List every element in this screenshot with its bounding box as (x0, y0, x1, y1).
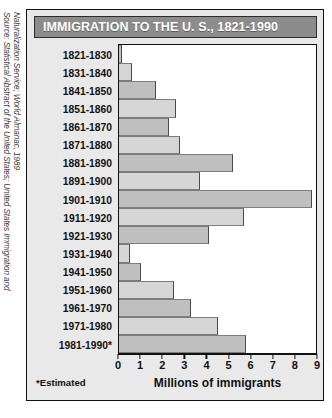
value-axis: 0123456789 (118, 354, 317, 376)
axis-line (118, 354, 317, 355)
category-label: 1911-1920 (34, 209, 118, 227)
axis-tick-label: 4 (203, 359, 209, 371)
bar (119, 226, 209, 244)
chart-figure: IMMIGRATION TO THE U. S., 1821-1990 1821… (26, 9, 324, 401)
bar-series (119, 45, 316, 353)
bar-row (119, 317, 316, 335)
category-label: 1861-1870 (34, 119, 118, 137)
source-line-1: Source: Statistical Abstract of the Unit… (2, 12, 11, 290)
category-label: 1931-1940 (34, 245, 118, 263)
bar (119, 45, 122, 63)
source-credit: Source: Statistical Abstract of the Unit… (0, 0, 26, 400)
category-label: 1901-1910 (34, 191, 118, 209)
axis-tick-label: 6 (248, 359, 254, 371)
bar-row (119, 45, 316, 63)
bar (119, 136, 180, 154)
category-label: 1921-1930 (34, 227, 118, 245)
category-label: 1951-1960 (34, 282, 118, 300)
bar-row (119, 99, 316, 117)
category-label: 1891-1900 (34, 173, 118, 191)
plot-area (118, 44, 317, 354)
category-label: 1881-1890 (34, 155, 118, 173)
axis-tick-label: 9 (314, 359, 320, 371)
bar-row (119, 281, 316, 299)
category-label: 1961-1970 (34, 300, 118, 318)
bar-row (119, 63, 316, 81)
title-banner: IMMIGRATION TO THE U. S., 1821-1990 (34, 16, 317, 38)
bar (119, 281, 174, 299)
x-axis-title: Millions of immigrants (118, 376, 317, 390)
bar-row (119, 263, 316, 281)
bar-row (119, 299, 316, 317)
category-axis-labels: 1821-18301831-18401841-18501851-18601861… (34, 44, 118, 354)
axis-tick-label: 2 (159, 359, 165, 371)
bar (119, 208, 244, 226)
category-label: 1831-1840 (34, 64, 118, 82)
axis-tick-label: 8 (292, 359, 298, 371)
chart-title: IMMIGRATION TO THE U. S., 1821-1990 (35, 20, 278, 34)
plot-wrapper: 1821-18301831-18401841-18501851-18601861… (34, 44, 317, 354)
bar (119, 172, 200, 190)
bar-row (119, 172, 316, 190)
bar (119, 317, 218, 335)
bar (119, 118, 169, 136)
bar-row (119, 226, 316, 244)
bar-row (119, 208, 316, 226)
axis-tick-label: 3 (181, 359, 187, 371)
axis-tick-label: 5 (225, 359, 231, 371)
bar (119, 154, 233, 172)
category-label: 1851-1860 (34, 100, 118, 118)
bar (119, 335, 246, 353)
category-label: 1971-1980 (34, 318, 118, 336)
category-label: 1821-1830 (34, 46, 118, 64)
bar (119, 63, 132, 81)
axis-tick-label: 0 (115, 359, 121, 371)
bar (119, 299, 191, 317)
bar-row (119, 118, 316, 136)
bar-row (119, 190, 316, 208)
category-label: 1871-1880 (34, 137, 118, 155)
bar (119, 190, 312, 208)
bar-row (119, 244, 316, 262)
bar-row (119, 81, 316, 99)
bar (119, 263, 141, 281)
axis-tick-label: 1 (137, 359, 143, 371)
bar-row (119, 154, 316, 172)
source-line-2: Naturalization Service; World Almanac, 1… (12, 12, 21, 170)
category-label: 1941-1950 (34, 264, 118, 282)
bar-row (119, 335, 316, 353)
chart-page: Source: Statistical Abstract of the Unit… (0, 0, 332, 418)
bar (119, 81, 156, 99)
bar (119, 99, 176, 117)
bar-row (119, 136, 316, 154)
axis-tick-label: 7 (270, 359, 276, 371)
chart-body: 1821-18301831-18401841-18501851-18601861… (34, 44, 317, 394)
category-label: 1981-1990* (34, 336, 118, 354)
category-label: 1841-1850 (34, 82, 118, 100)
bar (119, 244, 130, 262)
footnote: *Estimated (36, 377, 86, 388)
